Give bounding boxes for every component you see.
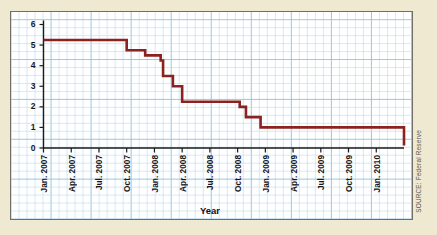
x-tick-label: Oct. 2007: [122, 155, 132, 192]
y-axis-title: Percentage Points: [0, 92, 56, 177]
y-tick-label: 5: [22, 40, 36, 50]
x-tick-label: Apr. 2008: [178, 155, 188, 192]
x-tick-label: Jul. 2009: [316, 155, 326, 190]
y-tick-label: 4: [22, 60, 36, 70]
x-tick-label: Oct. 2009: [344, 155, 354, 192]
x-tick-label: Jul. 2007: [94, 155, 104, 190]
source-note: SOURCE: Federal Reserve: [415, 130, 437, 213]
x-tick-label: Apr. 2007: [67, 155, 77, 192]
x-tick-label: Apr. 2009: [289, 155, 299, 192]
x-tick-label: Oct. 2008: [233, 155, 243, 192]
x-axis-title: Year: [150, 205, 270, 216]
x-tick-label: Jan. 2008: [150, 155, 160, 192]
chart-figure: 0123456 Jan. 2007Apr. 2007Jul. 2007Oct. …: [0, 0, 437, 235]
x-tick-label: Jan. 2010: [372, 155, 382, 192]
x-tick-label: Jul. 2008: [205, 155, 215, 190]
x-tick-label: Jan. 2009: [261, 155, 271, 192]
y-tick-label: 3: [22, 81, 36, 91]
y-tick-label: 6: [22, 19, 36, 29]
